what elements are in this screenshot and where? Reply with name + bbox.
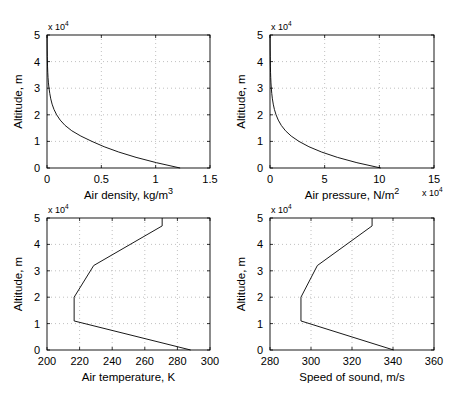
- x-tick-label: 15: [428, 173, 440, 185]
- grid-lines: [270, 218, 434, 350]
- subplot-sound_speed: 280300320340360012345x 104Speed of sound…: [235, 203, 443, 383]
- y-tick-label: 2: [257, 109, 263, 121]
- grid-lines: [47, 35, 210, 168]
- y-axis-multiplier: x 104: [48, 203, 69, 215]
- x-tick-label: 5: [322, 173, 328, 185]
- x-tick-label: 340: [384, 355, 402, 367]
- x-tick-label: 0.5: [94, 173, 109, 185]
- x-axis-label: Air pressure, N/m2: [305, 186, 399, 201]
- y-tick-label: 1: [34, 318, 40, 330]
- y-tick-label: 5: [257, 29, 263, 41]
- x-tick-label: 360: [425, 355, 443, 367]
- subplot-temperature: 200220240260280300012345x 104Air tempera…: [12, 203, 219, 383]
- x-tick-label: 260: [136, 355, 154, 367]
- y-tick-label: 1: [34, 135, 40, 147]
- y-tick-label: 2: [257, 291, 263, 303]
- y-tick-label: 3: [257, 265, 263, 277]
- y-tick-label: 5: [34, 29, 40, 41]
- y-axis-label: Altitude, m: [235, 257, 247, 311]
- x-tick-label: 0: [267, 173, 273, 185]
- axes-frame: [47, 218, 210, 350]
- x-tick-label: 320: [343, 355, 361, 367]
- data-line: [301, 218, 394, 350]
- data-line: [47, 35, 180, 168]
- x-tick-label: 1.5: [202, 173, 217, 185]
- y-tick-label: 2: [34, 291, 40, 303]
- axes-frame: [47, 35, 210, 168]
- x-axis-label: Air density, kg/m3: [84, 186, 173, 201]
- y-tick-label: 1: [257, 135, 263, 147]
- x-tick-label: 1: [153, 173, 159, 185]
- x-axis-label: Air temperature, K: [82, 371, 176, 383]
- y-tick-label: 3: [34, 82, 40, 94]
- x-tick-label: 10: [373, 173, 385, 185]
- y-tick-label: 0: [257, 344, 263, 356]
- y-tick-label: 4: [257, 56, 263, 68]
- y-axis-multiplier: x 104: [48, 20, 69, 32]
- x-tick-label: 300: [302, 355, 320, 367]
- x-tick-label: 0: [44, 173, 50, 185]
- y-tick-label: 3: [34, 265, 40, 277]
- x-tick-label: 280: [168, 355, 186, 367]
- data-line: [74, 218, 191, 350]
- y-tick-label: 4: [257, 238, 263, 250]
- y-tick-label: 1: [257, 318, 263, 330]
- figure-canvas: 00.511.5012345x 104Air density, kg/m3Alt…: [0, 0, 457, 398]
- x-tick-label: 220: [70, 355, 88, 367]
- axes-frame: [270, 35, 434, 168]
- x-tick-label: 240: [103, 355, 121, 367]
- x-tick-label: 300: [201, 355, 219, 367]
- y-axis-multiplier: x 104: [271, 203, 292, 215]
- x-tick-label: 200: [38, 355, 56, 367]
- y-axis-label: Altitude, m: [12, 257, 24, 311]
- subplot-pressure: 051015012345x 104x 104Air pressure, N/m2…: [235, 20, 443, 201]
- grid-lines: [270, 35, 434, 168]
- grid-lines: [47, 218, 210, 350]
- subplot-density: 00.511.5012345x 104Air density, kg/m3Alt…: [12, 20, 218, 201]
- y-tick-label: 3: [257, 82, 263, 94]
- y-tick-label: 4: [34, 238, 40, 250]
- y-axis-multiplier: x 104: [271, 20, 292, 32]
- y-tick-label: 0: [34, 162, 40, 174]
- x-axis-label: Speed of sound, m/s: [299, 371, 405, 383]
- data-line: [270, 35, 381, 168]
- y-tick-label: 4: [34, 56, 40, 68]
- y-tick-label: 2: [34, 109, 40, 121]
- y-tick-label: 0: [34, 344, 40, 356]
- y-axis-label: Altitude, m: [235, 74, 247, 128]
- y-axis-label: Altitude, m: [12, 74, 24, 128]
- x-tick-label: 280: [261, 355, 279, 367]
- y-tick-label: 5: [34, 212, 40, 224]
- x-axis-multiplier: x 104: [422, 186, 443, 198]
- y-tick-label: 5: [257, 212, 263, 224]
- y-tick-label: 0: [257, 162, 263, 174]
